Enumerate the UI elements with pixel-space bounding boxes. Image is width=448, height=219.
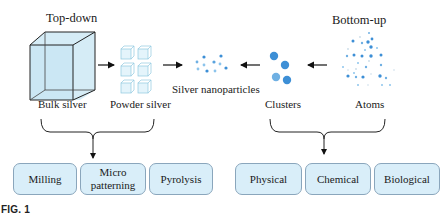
powder-silver-cubes-icon bbox=[121, 46, 151, 93]
top-down-heading: Top-down bbox=[46, 12, 97, 25]
cluster-circles-icon bbox=[270, 52, 291, 84]
method-box-micro-patterning: Micro patterning bbox=[80, 163, 146, 195]
powder-silver-label: Powder silver bbox=[110, 99, 171, 110]
bottom-up-heading: Bottom-up bbox=[332, 14, 386, 27]
method-box-chemical: Chemical bbox=[305, 163, 371, 195]
bulk-silver-cube-icon bbox=[30, 32, 95, 100]
bulk-silver-label: Bulk silver bbox=[38, 99, 87, 110]
atoms-label: Atoms bbox=[355, 99, 384, 110]
method-label: Physical bbox=[250, 173, 287, 186]
right-brace-connector bbox=[270, 119, 385, 154]
method-box-biological: Biological bbox=[374, 163, 440, 195]
method-box-pyrolysis: Pyrolysis bbox=[149, 163, 213, 195]
method-label: Biological bbox=[384, 173, 430, 186]
method-label: Milling bbox=[28, 173, 61, 186]
method-box-milling: Milling bbox=[13, 163, 77, 195]
method-label: Micro patterning bbox=[91, 166, 136, 191]
method-label: Pyrolysis bbox=[161, 173, 202, 186]
method-box-physical: Physical bbox=[235, 163, 302, 195]
left-brace-connector bbox=[41, 119, 154, 158]
figure-caption-label: FIG. 1 bbox=[1, 204, 30, 215]
silver-nanoparticles-label: Silver nanoparticles bbox=[172, 84, 260, 95]
method-label: Chemical bbox=[317, 173, 359, 186]
nanoparticle-dots-icon bbox=[196, 54, 228, 72]
clusters-label: Clusters bbox=[265, 99, 301, 110]
atoms-scatter-icon bbox=[342, 32, 395, 86]
